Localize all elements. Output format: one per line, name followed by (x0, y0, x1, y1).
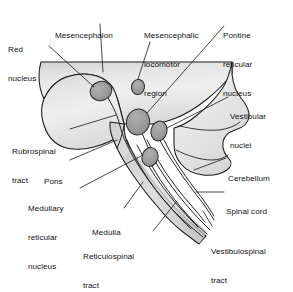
label-mesencephalon: Mesencephalon (55, 12, 113, 60)
label-red-nucleus: Red nucleus (8, 26, 36, 103)
label-prn-line-2: reticular (223, 60, 252, 70)
label-mlr-line-2: locomotor (144, 60, 199, 70)
label-mrn-line-2: reticular (28, 233, 64, 243)
label-red-nucleus-line-2: nucleus (8, 74, 36, 84)
label-vestibulospinal-tract: Vestibulospinal tract (211, 228, 266, 292)
label-vestibular-line-2: nuclei (230, 141, 266, 151)
label-reticulospinal-tract: Reticulospinal tract (83, 233, 134, 292)
label-reticulospinal-line-2: tract (83, 281, 134, 291)
label-mlr-line-3: region (144, 89, 199, 99)
label-medullary-reticular-nucleus: Medullary reticular nucleus (28, 185, 64, 291)
label-reticulospinal-line-1: Reticulospinal (83, 252, 134, 262)
label-spinal-cord-line-1: Spinal cord (226, 207, 267, 217)
label-mlr-line-1: Mesencephalic (144, 31, 199, 41)
label-mesencephalon-line-1: Mesencephalon (55, 31, 113, 41)
label-rubrospinal-line-1: Rubrospinal (12, 147, 56, 157)
label-mesencephalic-locomotor-region: Mesencephalic locomotor region (144, 12, 199, 118)
label-mrn-line-1: Medullary (28, 204, 64, 214)
label-cerebellum-line-1: Cerebellum (228, 174, 270, 184)
label-prn-line-1: Pontine (223, 31, 252, 41)
label-red-nucleus-line-1: Red (8, 45, 36, 55)
label-mrn-line-3: nucleus (28, 262, 64, 272)
leader-medulla (124, 182, 143, 208)
label-vestibulospinal-line-1: Vestibulospinal (211, 247, 266, 257)
label-vestibulospinal-line-2: tract (211, 276, 266, 286)
label-vestibular-line-1: Vestibular (230, 112, 266, 122)
